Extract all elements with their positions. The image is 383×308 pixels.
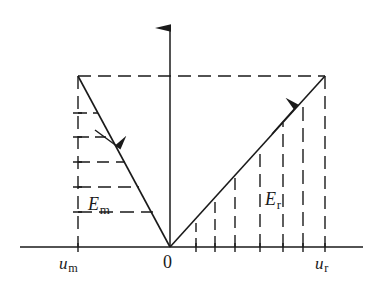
- field-label-em-symbol: E: [88, 194, 99, 214]
- axis-label-um-symbol: u: [59, 254, 68, 273]
- right-station-leaders: [196, 101, 303, 247]
- origin-label: 0: [163, 252, 172, 273]
- field-label-er-subscript: r: [276, 197, 281, 212]
- field-label-er: Er: [265, 189, 281, 213]
- left-field-direction-arrow: [95, 130, 118, 147]
- field-label-er-symbol: E: [265, 189, 276, 209]
- field-label-em: Em: [88, 194, 110, 218]
- field-label-em-subscript: m: [99, 202, 110, 217]
- right-field-direction-arrow: [272, 107, 296, 134]
- axis-label-um: um: [59, 254, 78, 276]
- axis-label-ur: ur: [315, 254, 328, 276]
- axis-label-ur-subscript: r: [324, 261, 329, 275]
- physics-diagram-figure: um 0 ur Em Er: [0, 0, 383, 308]
- axis-label-ur-symbol: u: [315, 254, 324, 273]
- right-branch-line: [170, 76, 325, 247]
- axis-label-um-subscript: m: [68, 261, 78, 275]
